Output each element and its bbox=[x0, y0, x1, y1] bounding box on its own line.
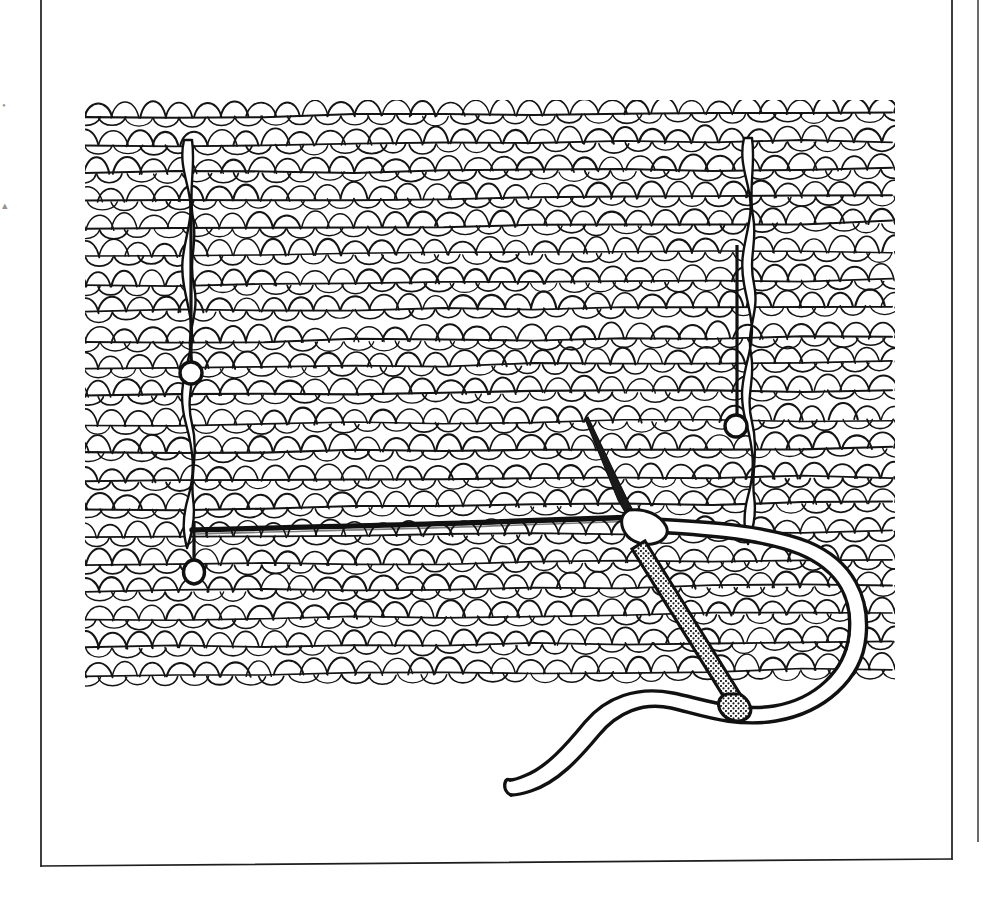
working-yarn bbox=[505, 518, 867, 795]
illustration-canvas bbox=[0, 0, 983, 907]
knit-row bbox=[73, 180, 951, 210]
knit-row bbox=[57, 97, 933, 127]
knit-row bbox=[73, 626, 953, 657]
knit-row bbox=[73, 403, 949, 435]
right-marker-thread bbox=[742, 138, 756, 544]
knit-row bbox=[71, 125, 952, 155]
knit-row bbox=[58, 598, 935, 630]
knit-row bbox=[72, 235, 945, 266]
needle-eye bbox=[719, 694, 751, 721]
margin-glyph-0: • bbox=[2, 100, 6, 111]
pin-head bbox=[725, 415, 747, 437]
illustration-page: • ▴ bbox=[0, 0, 983, 907]
pin-head bbox=[184, 560, 205, 584]
horizontal-seam-thread bbox=[192, 517, 640, 534]
knit-row bbox=[72, 289, 954, 322]
margin-glyph-1: ▴ bbox=[2, 200, 8, 211]
knit-row bbox=[72, 460, 952, 491]
pin-head bbox=[180, 362, 202, 384]
knit-row bbox=[58, 653, 935, 686]
